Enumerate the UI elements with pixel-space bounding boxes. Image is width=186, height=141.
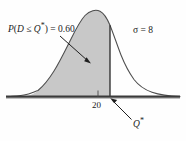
distribution-chart [0, 0, 186, 141]
probability-variable: D [17, 24, 24, 34]
probability-annotation-label: P(D ≤ Q*) = 0.60 [8, 25, 75, 35]
sigma-equals: = [138, 25, 148, 35]
qstar-q: Q [133, 119, 140, 129]
probability-relation: ≤ [24, 24, 34, 34]
qstar-leader-arrow [110, 98, 131, 119]
sigma-annotation-label: σ = 8 [133, 26, 153, 36]
probability-equals: = [48, 24, 58, 34]
normal-distribution-figure: P(D ≤ Q*) = 0.60 σ = 8 20 Q* [0, 0, 186, 141]
probability-qstar-q: Q [34, 24, 41, 34]
axis-tick-label-20: 20 [92, 101, 101, 110]
qstar-annotation-label: Q* [133, 120, 144, 130]
qstar-asterisk: * [140, 116, 144, 125]
probability-value: 0.60 [58, 24, 75, 34]
sigma-value: 8 [148, 25, 153, 35]
